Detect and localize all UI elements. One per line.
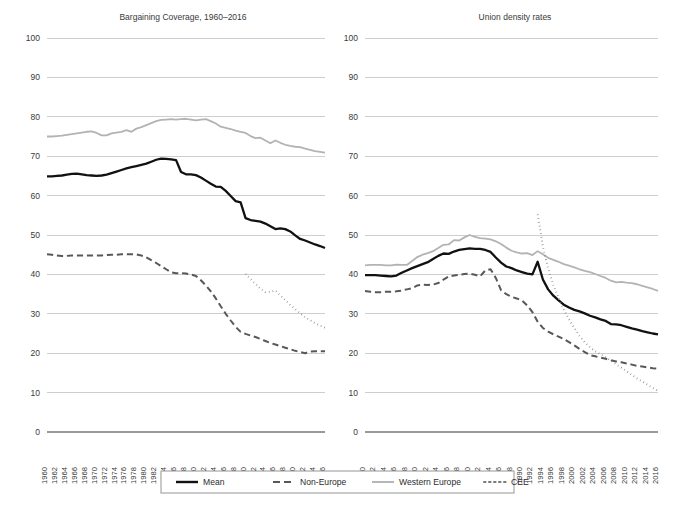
y-tick-label: 80 [31,112,41,122]
y-tick-label: 50 [349,230,359,240]
x-tick-label: 1962 [50,467,59,484]
x-tick-label: 1972 [100,467,109,484]
x-tick-label: 1982 [149,467,158,484]
legend-label-western-europe: Western Europe [399,477,461,487]
y-tick-label: 90 [349,72,359,82]
x-tick-label: 1996 [546,467,555,484]
x-tick-label: 2004 [588,467,597,484]
left-panel-title: Bargaining Coverage, 1960–2016 [119,12,246,22]
legend-label-non-europe: Non-Europe [300,477,347,487]
y-tick-label: 40 [349,269,359,279]
chart-background [0,0,675,507]
x-tick-label: 1966 [70,467,79,484]
x-tick-label: 2000 [567,467,576,484]
y-tick-label: 60 [31,191,41,201]
y-tick-label: 20 [31,348,41,358]
x-tick-label: 1964 [60,467,69,484]
x-tick-label: 1994 [536,467,545,484]
x-tick-label: 2014 [641,467,650,484]
x-tick-label: 2002 [578,467,587,484]
right-panel-title: Union density rates [479,12,552,22]
x-tick-label: 1976 [119,467,128,484]
y-tick-label: 70 [349,151,359,161]
y-tick-label: 100 [26,33,40,43]
x-tick-label: 1998 [557,467,566,484]
y-tick-label: 30 [31,309,41,319]
x-tick-label: 1978 [129,467,138,484]
y-tick-label: 40 [31,269,41,279]
x-tick-label: 1974 [110,467,119,484]
x-tick-label: 1980 [139,467,148,484]
y-tick-label: 80 [349,112,359,122]
y-tick-label: 100 [344,33,358,43]
y-tick-label: 60 [349,191,359,201]
x-tick-label: 2010 [620,467,629,484]
x-tick-label: 1968 [80,467,89,484]
y-tick-label: 70 [31,151,41,161]
x-tick-label: 2006 [599,467,608,484]
figure-container: Bargaining Coverage, 1960–2016 100908070… [0,0,675,507]
x-tick-label: 2016 [651,467,660,484]
legend-label-mean: Mean [203,477,225,487]
y-tick-label: 20 [349,348,359,358]
y-tick-label: 10 [349,388,359,398]
x-tick-label: 2012 [630,467,639,484]
y-tick-label: 10 [31,388,41,398]
y-tick-label: 30 [349,309,359,319]
y-tick-label: 50 [31,230,41,240]
legend-label-cee: CEE [511,477,529,487]
x-tick-label: 1970 [90,467,99,484]
x-tick-label: 1960 [40,467,49,484]
chart-legend: MeanNon-EuropeWestern EuropeCEE [161,471,529,493]
y-tick-label: 0 [353,427,358,437]
x-tick-label: 2008 [609,467,618,484]
dual-panel-line-chart: Bargaining Coverage, 1960–2016 100908070… [0,0,675,507]
y-tick-label: 90 [31,72,41,82]
y-tick-label: 0 [35,427,40,437]
